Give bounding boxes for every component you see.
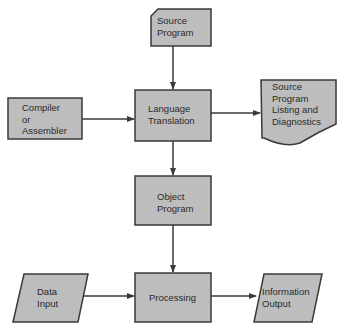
label-line: Source xyxy=(157,15,193,27)
processing-label: Processing xyxy=(149,292,196,304)
source-program-label: Source Program xyxy=(157,15,193,38)
label-line: Diagnostics xyxy=(272,116,321,128)
compiler-label: Compiler or Assembler xyxy=(22,102,67,137)
label-line: Language xyxy=(148,103,195,115)
label-line: Program xyxy=(157,203,193,215)
label-line: Source xyxy=(272,81,321,93)
label-line: or xyxy=(22,114,67,126)
label-line: Processing xyxy=(149,292,196,304)
label-line: Assembler xyxy=(22,125,67,137)
label-line: Data xyxy=(37,286,58,298)
label-line: Information xyxy=(262,286,310,298)
label-line: Program xyxy=(272,93,321,105)
label-line: Listing and xyxy=(272,104,321,116)
listing-label: Source Program Listing and Diagnostics xyxy=(272,81,321,127)
label-line: Translation xyxy=(148,115,195,127)
flowchart-canvas xyxy=(0,0,343,329)
language-translation-label: Language Translation xyxy=(148,103,195,126)
data-input-label: Data Input xyxy=(37,286,58,309)
label-line: Object xyxy=(157,191,193,203)
information-output-label: Information Output xyxy=(262,286,310,309)
label-line: Output xyxy=(262,298,310,310)
label-line: Program xyxy=(157,27,193,39)
object-program-label: Object Program xyxy=(157,191,193,214)
label-line: Compiler xyxy=(22,102,67,114)
label-line: Input xyxy=(37,298,58,310)
